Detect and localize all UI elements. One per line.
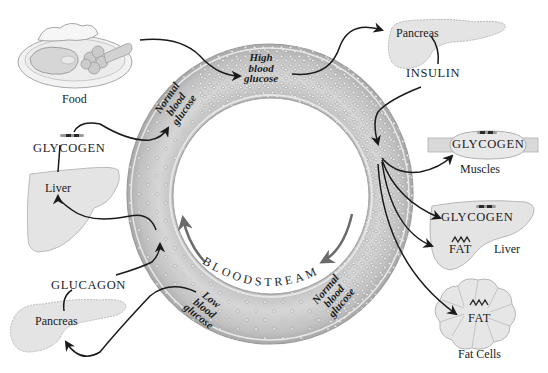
liver-right-fat-label: FAT (449, 242, 472, 257)
muscles-glycogen-label: GLYCOGEN (452, 137, 524, 152)
food-plate-icon (18, 23, 132, 88)
fat-cells-fat-label: FAT (468, 311, 491, 326)
liver-right-glycogen-label: GLYCOGEN (441, 210, 513, 225)
pancreas-top-label: Pancreas (396, 26, 439, 41)
liver-left-shape (27, 167, 119, 252)
ring-label-line: glucose (244, 73, 278, 84)
ring-label-line: High (244, 52, 278, 63)
glucagon-label: GLUCAGON (51, 278, 126, 293)
insulin-label: INSULIN (406, 66, 460, 81)
liver-right-label: Liver (494, 242, 520, 257)
liver-left-label: Liver (45, 181, 71, 196)
pancreas-bottom-label: Pancreas (35, 314, 78, 329)
food-label: Food (62, 92, 87, 107)
muscles-label: Muscles (460, 162, 500, 177)
high-blood-glucose-label: High blood glucose (244, 52, 278, 84)
fat-cells-label: Fat Cells (458, 347, 501, 362)
glycogen-left-label: GLYCOGEN (33, 141, 105, 156)
glycogen-chain-left-icon (60, 134, 84, 137)
